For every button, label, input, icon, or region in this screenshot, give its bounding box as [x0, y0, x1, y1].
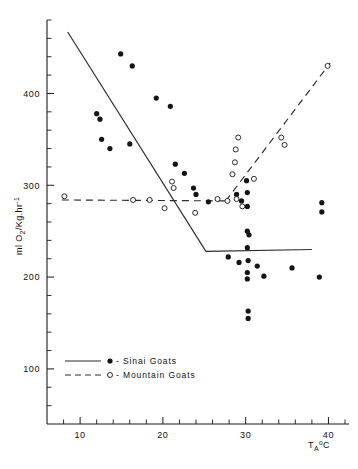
data-point-sinai-goats: [191, 185, 196, 190]
data-point-sinai-goats: [245, 270, 250, 275]
data-point-sinai-goats: [236, 260, 241, 265]
data-point-sinai-goats: [168, 104, 173, 109]
data-point-mountain-goats: [279, 135, 284, 140]
x-tick-label: 10: [75, 430, 86, 440]
legend-marker-mountain: [108, 373, 113, 378]
data-point-sinai-goats: [255, 263, 260, 268]
data-point-mountain-goats: [162, 206, 167, 211]
x-tick-label: 30: [240, 430, 251, 440]
data-point-mountain-goats: [282, 142, 287, 147]
data-point-sinai-goats: [97, 117, 102, 122]
data-point-mountain-goats: [240, 204, 245, 209]
x-title-sub: A: [314, 445, 319, 452]
legend-label-sinai: Sinai Goats: [123, 356, 177, 366]
data-point-mountain-goats: [325, 63, 330, 68]
data-point-sinai-goats: [206, 199, 211, 204]
data-point-sinai-goats: [245, 190, 250, 195]
legend: -Sinai Goats-Mountain Goats: [65, 356, 196, 380]
y-tick-label: 300: [23, 181, 40, 191]
y-axis-title-text: ml O2/Kg.hr-1: [13, 197, 27, 255]
data-point-mountain-goats: [171, 186, 176, 191]
data-point-sinai-goats: [182, 171, 187, 176]
legend-separator: -: [116, 370, 120, 380]
data-point-mountain-goats: [230, 172, 235, 177]
data-point-mountain-goats: [193, 210, 198, 215]
data-point-sinai-goats: [244, 178, 249, 183]
data-point-sinai-goats: [319, 200, 324, 205]
y-title-mid: /Kg.hr: [14, 204, 24, 230]
data-points-group: [62, 51, 330, 321]
sinai-regression: [206, 250, 312, 252]
data-point-sinai-goats: [245, 276, 250, 281]
y-tick-label: 200: [23, 272, 40, 282]
data-point-sinai-goats: [246, 308, 251, 313]
data-point-mountain-goats: [233, 147, 238, 152]
y-axis-title: ml O2/Kg.hr-1: [13, 197, 27, 255]
data-point-sinai-goats: [245, 204, 250, 209]
data-point-mountain-goats: [232, 160, 237, 165]
y-axis-ticks: [47, 20, 54, 406]
data-point-sinai-goats: [317, 274, 322, 279]
data-point-mountain-goats: [236, 135, 241, 140]
x-axis-tick-labels: 10203040: [75, 430, 335, 440]
x-tick-label: 20: [157, 430, 168, 440]
data-point-sinai-goats: [94, 111, 99, 116]
data-point-sinai-goats: [289, 265, 294, 270]
data-point-sinai-goats: [245, 245, 250, 250]
x-axis-ticks: [64, 417, 345, 424]
data-point-sinai-goats: [99, 137, 104, 142]
data-point-mountain-goats: [234, 197, 239, 202]
data-point-mountain-goats: [215, 197, 220, 202]
data-point-sinai-goats: [118, 51, 123, 56]
data-point-sinai-goats: [261, 274, 266, 279]
data-point-sinai-goats: [193, 192, 198, 197]
y-tick-label: 400: [23, 89, 40, 99]
data-point-sinai-goats: [239, 198, 244, 203]
data-point-sinai-goats: [246, 232, 251, 237]
data-point-sinai-goats: [130, 63, 135, 68]
figure-panel: 100200300400 10203040 ml O2/Kg.hr-1 TAoC…: [0, 0, 358, 469]
data-point-mountain-goats: [131, 197, 136, 202]
data-point-sinai-goats: [226, 254, 231, 259]
sinai-regression: [68, 32, 206, 251]
mountain-regression: [226, 63, 330, 201]
legend-separator: -: [116, 356, 120, 366]
data-point-mountain-goats: [62, 194, 67, 199]
data-point-mountain-goats: [225, 198, 230, 203]
data-point-sinai-goats: [173, 162, 178, 167]
legend-marker-sinai: [107, 358, 112, 363]
x-tick-label: 40: [323, 430, 334, 440]
data-point-mountain-goats: [251, 176, 256, 181]
x-axis-title-text: TAoC: [308, 439, 330, 452]
data-point-sinai-goats: [246, 316, 251, 321]
data-point-sinai-goats: [319, 209, 324, 214]
legend-label-mountain: Mountain Goats: [123, 370, 196, 380]
data-point-sinai-goats: [107, 146, 112, 151]
x-axis-title: TAoC: [308, 439, 330, 452]
y-tick-label: 100: [23, 364, 40, 374]
mountain-regression: [62, 200, 226, 201]
y-title-sup: -1: [13, 197, 20, 204]
data-point-mountain-goats: [169, 179, 174, 184]
data-point-sinai-goats: [246, 258, 251, 263]
data-point-sinai-goats: [154, 95, 159, 100]
data-point-sinai-goats: [127, 141, 132, 146]
data-point-mountain-goats: [147, 197, 152, 202]
y-title-prefix: ml O: [14, 234, 24, 255]
axes-group: [47, 20, 349, 424]
x-title-unit: C: [323, 440, 330, 450]
scatter-plot-canvas: 100200300400 10203040 ml O2/Kg.hr-1 TAoC…: [0, 0, 358, 469]
